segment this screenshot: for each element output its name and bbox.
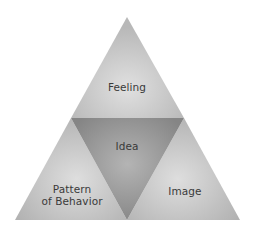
feeling-label: Feeling [108, 81, 146, 93]
feeling-section [71, 17, 184, 118]
triangle-diagram: Feeling Idea Pattern of Behavior Image [0, 0, 255, 236]
pattern-label-line2: of Behavior [41, 195, 103, 207]
image-label: Image [168, 185, 201, 197]
idea-label: Idea [115, 140, 138, 152]
pattern-label-line1: Pattern [53, 183, 91, 195]
